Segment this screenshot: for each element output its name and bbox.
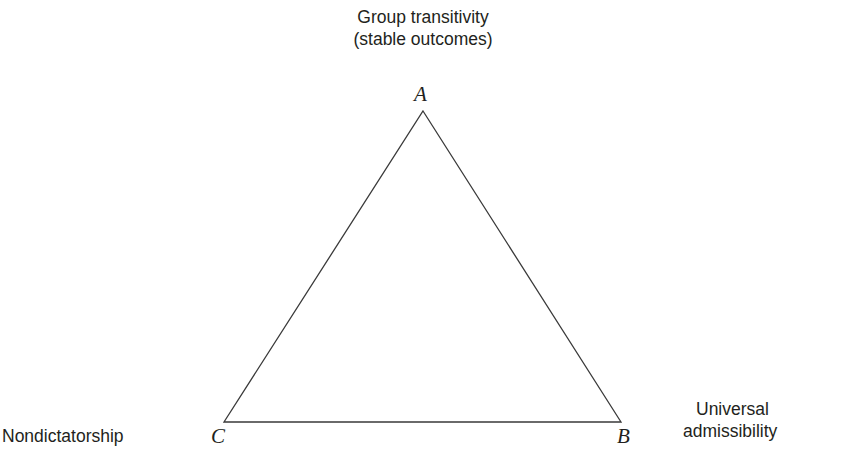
caption-universal-admissibility: Universal admissibility [683,398,777,442]
triangle-outline [224,111,621,422]
vertex-label-a: A [414,84,427,105]
caption-universal-admissibility-line-2: admissibility [683,420,777,442]
caption-nondictatorship-line-1: Nondictatorship [2,426,124,446]
figure-root: Group transitivity (stable outcomes) Non… [0,0,848,474]
caption-group-transitivity-line-2: (stable outcomes) [0,28,847,50]
caption-group-transitivity-line-1: Group transitivity [0,6,847,28]
caption-nondictatorship: Nondictatorship [2,425,124,447]
vertex-label-b: C [211,426,225,447]
caption-group-transitivity: Group transitivity (stable outcomes) [0,6,847,50]
caption-universal-admissibility-line-1: Universal [683,398,777,420]
vertex-label-c: B [617,426,630,447]
